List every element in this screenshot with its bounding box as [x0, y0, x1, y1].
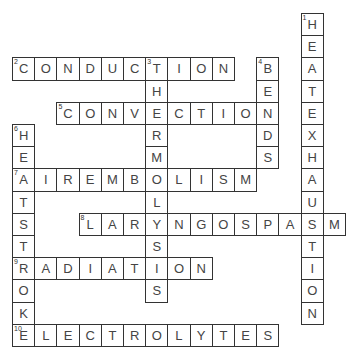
- crossword-cell[interactable]: G: [190, 213, 213, 236]
- crossword-cell[interactable]: I: [301, 257, 324, 280]
- crossword-cell[interactable]: D: [79, 57, 102, 80]
- crossword-cell[interactable]: M: [145, 146, 168, 169]
- crossword-cell[interactable]: T: [12, 235, 35, 258]
- crossword-cell[interactable]: T: [301, 235, 324, 258]
- crossword-cell[interactable]: I: [34, 168, 57, 191]
- crossword-cell[interactable]: A: [278, 213, 301, 236]
- crossword-cell[interactable]: S: [145, 279, 168, 302]
- crossword-cell[interactable]: T: [301, 80, 324, 103]
- crossword-cell[interactable]: A7: [12, 168, 35, 191]
- crossword-cell[interactable]: E: [145, 102, 168, 125]
- crossword-cell[interactable]: I: [79, 257, 102, 280]
- crossword-cell[interactable]: B4: [256, 57, 279, 80]
- crossword-cell[interactable]: O: [190, 57, 213, 80]
- cell-letter: S: [241, 217, 250, 232]
- cell-letter: T: [308, 84, 316, 99]
- crossword-cell[interactable]: N: [301, 302, 324, 325]
- crossword-cell[interactable]: A: [301, 168, 324, 191]
- cell-letter: O: [218, 217, 228, 232]
- crossword-cell[interactable]: A: [34, 257, 57, 280]
- crossword-cell[interactable]: A: [301, 57, 324, 80]
- crossword-cell[interactable]: O: [12, 279, 35, 302]
- crossword-cell[interactable]: B: [123, 168, 146, 191]
- crossword-cell[interactable]: H: [145, 80, 168, 103]
- crossword-cell[interactable]: O: [167, 257, 190, 280]
- crossword-cell[interactable]: N: [56, 57, 79, 80]
- crossword-cell[interactable]: O: [145, 324, 168, 347]
- crossword-cell[interactable]: C: [79, 324, 102, 347]
- crossword-cell[interactable]: M: [323, 213, 346, 236]
- crossword-cell[interactable]: V: [123, 102, 146, 125]
- crossword-cell[interactable]: H1: [301, 13, 324, 36]
- crossword-cell[interactable]: O: [301, 279, 324, 302]
- crossword-cell[interactable]: X: [301, 124, 324, 147]
- crossword-cell[interactable]: I: [190, 168, 213, 191]
- cell-letter: L: [175, 172, 182, 187]
- crossword-cell[interactable]: E: [12, 146, 35, 169]
- crossword-cell[interactable]: O: [79, 102, 102, 125]
- crossword-cell[interactable]: A: [101, 213, 124, 236]
- crossword-cell[interactable]: S: [256, 324, 279, 347]
- crossword-cell[interactable]: T: [101, 324, 124, 347]
- crossword-cell[interactable]: R9: [12, 257, 35, 280]
- crossword-cell[interactable]: D: [56, 257, 79, 280]
- crossword-cell[interactable]: E: [234, 324, 257, 347]
- crossword-cell[interactable]: N: [167, 213, 190, 236]
- crossword-cell[interactable]: S: [301, 213, 324, 236]
- crossword-cell[interactable]: E: [56, 324, 79, 347]
- crossword-cell[interactable]: E: [301, 102, 324, 125]
- crossword-cell[interactable]: O: [234, 102, 257, 125]
- crossword-cell[interactable]: N: [212, 57, 235, 80]
- crossword-cell[interactable]: E10: [12, 324, 35, 347]
- crossword-cell[interactable]: E: [256, 80, 279, 103]
- crossword-cell[interactable]: R: [56, 168, 79, 191]
- crossword-cell[interactable]: R: [123, 324, 146, 347]
- crossword-cell[interactable]: L: [167, 168, 190, 191]
- crossword-cell[interactable]: S: [234, 213, 257, 236]
- crossword-cell[interactable]: T: [190, 102, 213, 125]
- crossword-cell[interactable]: R: [145, 124, 168, 147]
- crossword-cell[interactable]: O: [212, 213, 235, 236]
- crossword-cell[interactable]: U: [101, 57, 124, 80]
- crossword-cell[interactable]: L: [34, 324, 57, 347]
- crossword-cell[interactable]: M: [234, 168, 257, 191]
- cell-letter: E: [64, 328, 73, 343]
- crossword-cell[interactable]: E: [79, 168, 102, 191]
- crossword-cell[interactable]: T: [212, 324, 235, 347]
- crossword-cell[interactable]: T: [12, 191, 35, 214]
- crossword-cell[interactable]: L8: [79, 213, 102, 236]
- crossword-cell[interactable]: T: [123, 257, 146, 280]
- crossword-cell[interactable]: H: [301, 146, 324, 169]
- cell-letter: A: [308, 172, 317, 187]
- crossword-cell[interactable]: N: [101, 102, 124, 125]
- crossword-cell[interactable]: M: [101, 168, 124, 191]
- crossword-cell[interactable]: I: [145, 257, 168, 280]
- crossword-cell[interactable]: E: [301, 35, 324, 58]
- crossword-cell[interactable]: O: [34, 57, 57, 80]
- crossword-cell[interactable]: S: [256, 146, 279, 169]
- crossword-cell[interactable]: L: [167, 324, 190, 347]
- crossword-cell[interactable]: U: [301, 191, 324, 214]
- crossword-cell[interactable]: C: [123, 57, 146, 80]
- crossword-cell[interactable]: P: [256, 213, 279, 236]
- crossword-cell[interactable]: Y: [190, 324, 213, 347]
- crossword-cell[interactable]: S: [212, 168, 235, 191]
- crossword-cell[interactable]: O: [145, 168, 168, 191]
- crossword-cell[interactable]: I: [212, 102, 235, 125]
- crossword-cell[interactable]: R: [123, 213, 146, 236]
- crossword-cell[interactable]: N: [190, 257, 213, 280]
- crossword-cell[interactable]: H6: [12, 124, 35, 147]
- crossword-cell[interactable]: Y: [145, 213, 168, 236]
- crossword-cell[interactable]: C5: [56, 102, 79, 125]
- crossword-cell[interactable]: N: [256, 102, 279, 125]
- crossword-cell[interactable]: D: [256, 124, 279, 147]
- crossword-cell[interactable]: S: [12, 213, 35, 236]
- crossword-cell[interactable]: A: [101, 257, 124, 280]
- crossword-cell[interactable]: L: [145, 191, 168, 214]
- crossword-cell[interactable]: K: [12, 302, 35, 325]
- crossword-cell[interactable]: I: [167, 57, 190, 80]
- crossword-cell[interactable]: C: [167, 102, 190, 125]
- crossword-cell[interactable]: T3: [145, 57, 168, 80]
- crossword-cell[interactable]: C2: [12, 57, 35, 80]
- crossword-cell[interactable]: S: [145, 235, 168, 258]
